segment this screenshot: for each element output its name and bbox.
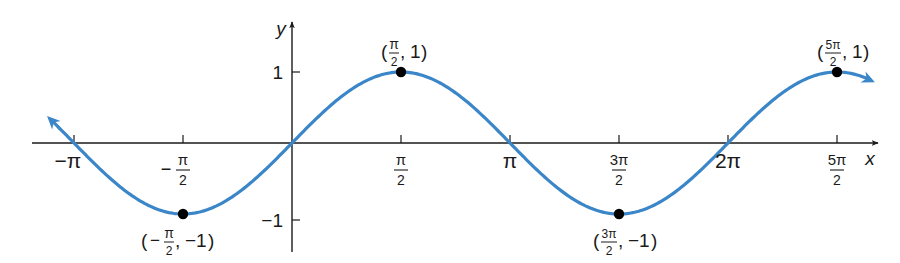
point-label: (3π2,−1) (593, 227, 657, 258)
point-label: (π2,1) (381, 36, 427, 69)
point-marker (614, 209, 624, 219)
sine-graph: xy−ππ2−π2π3π22π5π21−1(−π2,−1)(π2,1)(3π2,… (0, 0, 900, 263)
y-tick-label: −1 (261, 210, 283, 231)
svg-text:2: 2 (830, 55, 837, 69)
svg-text:−1: −1 (628, 230, 650, 251)
x-tick-label: π (503, 149, 518, 172)
point-marker (178, 209, 188, 219)
svg-text:,: , (618, 230, 623, 251)
y-tick-label: 1 (272, 62, 283, 83)
x-tick-fraction-label: π2 (394, 151, 408, 188)
svg-text:5π: 5π (826, 38, 841, 52)
svg-text:2: 2 (166, 244, 173, 258)
x-tick-fraction-label: π2− (161, 151, 190, 188)
point-marker (396, 67, 406, 77)
svg-text:(: ( (817, 41, 824, 62)
x-tick-fraction-label: 3π2 (610, 151, 629, 188)
svg-text:): ) (208, 230, 214, 251)
axes (32, 22, 878, 252)
svg-text:,: , (175, 230, 180, 251)
svg-text:π: π (164, 225, 174, 241)
svg-text:1: 1 (410, 41, 421, 62)
svg-text:2: 2 (397, 172, 405, 188)
y-axis-label: y (274, 18, 287, 39)
svg-text:,: , (842, 41, 847, 62)
x-tick-label: −π (55, 149, 82, 172)
svg-text:π: π (389, 36, 399, 52)
svg-text:2: 2 (179, 172, 187, 188)
svg-text:2: 2 (391, 55, 398, 69)
svg-text:π: π (396, 151, 406, 168)
svg-text:3π: 3π (602, 227, 617, 241)
svg-text:2: 2 (606, 244, 613, 258)
svg-text:−1: −1 (185, 230, 207, 251)
svg-text:2: 2 (615, 172, 623, 188)
svg-text:): ) (421, 41, 427, 62)
svg-text:(: ( (381, 41, 388, 62)
svg-text:2: 2 (833, 172, 841, 188)
tick-labels: xy−ππ2−π2π3π22π5π21−1(−π2,−1)(π2,1)(3π2,… (55, 18, 877, 258)
point-label: (5π2,1) (817, 38, 869, 69)
x-tick-label: 2π (715, 149, 741, 172)
svg-text:1: 1 (852, 41, 863, 62)
svg-text:−: − (161, 159, 172, 179)
x-tick-fraction-label: 5π2 (828, 151, 847, 188)
svg-text:5π: 5π (828, 151, 847, 168)
svg-text:π: π (178, 151, 188, 168)
svg-text:): ) (863, 41, 869, 62)
svg-text:,: , (400, 41, 405, 62)
x-axis-label: x (864, 148, 876, 169)
svg-text:(: ( (593, 230, 600, 251)
svg-text:): ) (651, 230, 657, 251)
point-label: (−π2,−1) (141, 225, 214, 258)
svg-text:−: − (150, 231, 160, 250)
svg-text:3π: 3π (610, 151, 629, 168)
svg-text:(: ( (141, 230, 148, 251)
